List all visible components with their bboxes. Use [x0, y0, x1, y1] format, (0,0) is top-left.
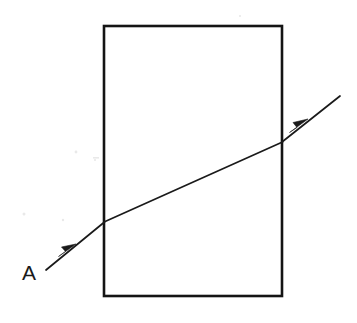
speck-dot	[23, 213, 26, 216]
ray-start-label-A: A	[22, 261, 36, 284]
speck-dot	[62, 219, 64, 221]
scan-speckles	[23, 15, 242, 221]
incident-arrowhead	[59, 244, 77, 257]
speck-dash	[93, 157, 99, 159]
speck-dot	[75, 151, 78, 154]
figure-root: A	[0, 0, 357, 323]
speck-dot	[94, 159, 96, 161]
ray-diagram-svg: A	[0, 0, 357, 323]
incident-ray	[46, 222, 105, 270]
emergent-ray	[282, 96, 340, 142]
refracted-ray-inside-block	[104, 142, 283, 222]
rectangular-block	[104, 26, 282, 296]
emergent-arrowhead	[290, 119, 309, 133]
speck-dot	[239, 15, 241, 17]
